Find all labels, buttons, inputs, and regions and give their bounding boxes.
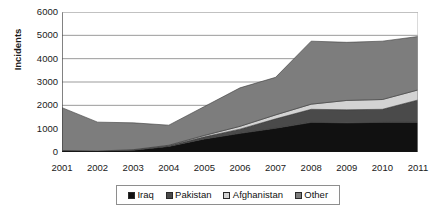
y-axis-title: Incidents	[12, 7, 23, 93]
legend-item-afghanistan[interactable]: Afghanistan	[223, 190, 283, 200]
legend-swatch-other	[295, 192, 302, 199]
legend-item-other[interactable]: Other	[295, 190, 328, 200]
legend-item-pakistan[interactable]: Pakistan	[166, 190, 212, 200]
y-tick-label: 2000	[28, 100, 58, 110]
x-tick-label: 2005	[187, 163, 221, 173]
y-tick-label: 1000	[28, 124, 58, 134]
x-tick-label: 2004	[152, 163, 186, 173]
legend-swatch-iraq	[128, 192, 135, 199]
chart-legend: IraqPakistanAfghanistanOther	[116, 185, 340, 205]
x-tick-label: 2011	[401, 163, 429, 173]
legend-item-iraq[interactable]: Iraq	[128, 190, 154, 200]
legend-label: Other	[304, 190, 328, 200]
legend-label: Afghanistan	[233, 190, 283, 200]
x-axis-tick-labels: 2001200220032004200520062007200820092010…	[0, 159, 429, 175]
y-tick-label: 3000	[28, 77, 58, 87]
stacked-area-chart: Incidents 0100020003000400050006000 2001…	[0, 0, 429, 216]
x-tick-label: 2008	[294, 163, 328, 173]
x-tick-label: 2002	[81, 163, 115, 173]
x-tick-label: 2009	[330, 163, 364, 173]
x-tick-label: 2003	[116, 163, 150, 173]
y-tick-label: 0	[28, 147, 58, 157]
x-tick-label: 2007	[259, 163, 293, 173]
y-tick-label: 4000	[28, 54, 58, 64]
x-tick-label: 2006	[223, 163, 257, 173]
legend-swatch-afghanistan	[223, 192, 230, 199]
y-tick-label: 6000	[28, 7, 58, 17]
legend-label: Pakistan	[175, 190, 211, 200]
x-tick-label: 2010	[365, 163, 399, 173]
legend-label: Iraq	[137, 190, 153, 200]
legend-swatch-pakistan	[166, 192, 173, 199]
y-tick-label: 5000	[28, 30, 58, 40]
y-axis-tick-labels: 0100020003000400050006000	[26, 0, 58, 216]
plot-area	[62, 12, 418, 152]
x-tick-label: 2001	[45, 163, 79, 173]
